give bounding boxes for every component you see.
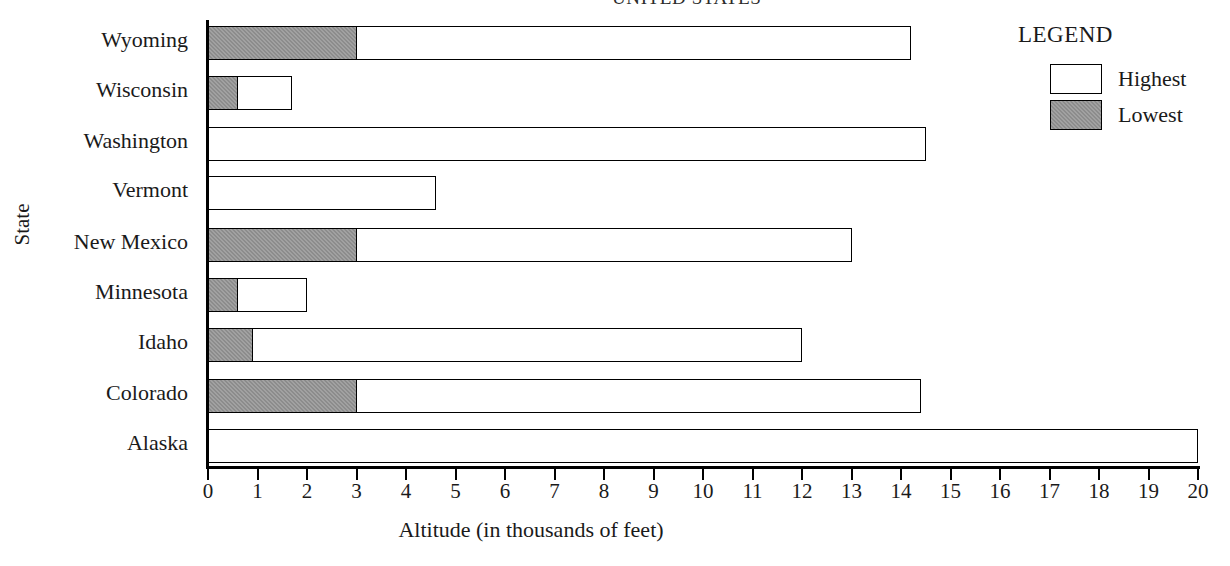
x-axis-tick-label: 15 <box>931 479 971 504</box>
bar-segment-lowest[interactable] <box>208 26 357 60</box>
x-axis-tick-label: 20 <box>1178 479 1218 504</box>
y-axis-category-label: Alaska <box>127 430 188 456</box>
x-axis-title-text: Altitude (in thousands of feet) <box>398 517 663 542</box>
bar-row[interactable] <box>208 76 292 110</box>
bar-segment-highest[interactable] <box>208 176 436 210</box>
bar-segment-lowest[interactable] <box>208 328 253 362</box>
legend-item-lowest: Lowest <box>1010 100 1220 130</box>
y-axis-title: State <box>10 185 35 265</box>
legend-title: LEGEND <box>1018 22 1220 48</box>
y-axis-category-label: New Mexico <box>74 229 188 255</box>
y-axis-category-label: Idaho <box>138 329 188 355</box>
x-axis-tick-label: 2 <box>287 479 327 504</box>
x-axis-tick-label: 4 <box>386 479 426 504</box>
bar-row[interactable] <box>208 127 926 161</box>
legend-swatch-highest-icon <box>1050 64 1102 94</box>
bar-row[interactable] <box>208 429 1198 463</box>
bar-segment-lowest[interactable] <box>208 76 238 110</box>
x-axis-tick-label: 9 <box>634 479 674 504</box>
bar-row[interactable] <box>208 379 921 413</box>
y-axis-category-label: Vermont <box>112 177 188 203</box>
bar-row[interactable] <box>208 328 802 362</box>
y-axis-category-label: Wyoming <box>101 27 188 53</box>
x-axis-tick-label: 3 <box>337 479 377 504</box>
x-axis-tick-label: 16 <box>980 479 1020 504</box>
legend: LEGEND Highest Lowest <box>1010 22 1220 136</box>
x-axis-tick-label: 8 <box>584 479 624 504</box>
x-axis-tick-label: 19 <box>1129 479 1169 504</box>
y-axis-category-label: Minnesota <box>95 279 188 305</box>
legend-label-highest: Highest <box>1118 66 1186 92</box>
x-axis-tick-label: 7 <box>535 479 575 504</box>
y-axis-category-label: Wisconsin <box>96 77 188 103</box>
x-axis-tick-label: 6 <box>485 479 525 504</box>
x-axis-tick-label: 5 <box>436 479 476 504</box>
x-axis-title: Altitude (in thousands of feet) <box>0 517 1230 543</box>
bar-segment-lowest[interactable] <box>208 379 357 413</box>
y-axis-category-label: Washington <box>83 128 188 154</box>
bar-row[interactable] <box>208 228 852 262</box>
legend-swatch-lowest-icon <box>1050 100 1102 130</box>
x-axis-tick-label: 0 <box>188 479 228 504</box>
x-axis-tick-label: 18 <box>1079 479 1119 504</box>
bar-row[interactable] <box>208 176 436 210</box>
bar-segment-highest[interactable] <box>208 429 1198 463</box>
bar-row[interactable] <box>208 278 307 312</box>
legend-label-lowest: Lowest <box>1118 102 1183 128</box>
x-axis-tick-label: 12 <box>782 479 822 504</box>
x-axis-tick-label: 11 <box>733 479 773 504</box>
bar-segment-highest[interactable] <box>208 328 802 362</box>
x-axis-tick-label: 13 <box>832 479 872 504</box>
x-axis-tick-label: 14 <box>881 479 921 504</box>
legend-item-highest: Highest <box>1010 64 1220 94</box>
bar-row[interactable] <box>208 26 911 60</box>
bar-segment-highest[interactable] <box>208 127 926 161</box>
x-axis-tick-label: 1 <box>238 479 278 504</box>
x-axis-tick-label: 10 <box>683 479 723 504</box>
bar-segment-lowest[interactable] <box>208 228 357 262</box>
bar-segment-lowest[interactable] <box>208 278 238 312</box>
y-axis-category-label: Colorado <box>106 380 188 406</box>
x-axis-tick-label: 17 <box>1030 479 1070 504</box>
